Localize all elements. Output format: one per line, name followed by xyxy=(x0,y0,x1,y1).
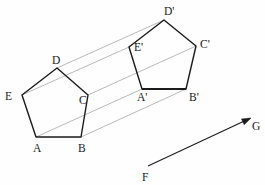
vertex-label-a-prime: A' xyxy=(137,91,147,103)
vector-fg xyxy=(148,118,251,166)
vector-label-g: G xyxy=(252,120,260,132)
vertex-label-b: B xyxy=(78,142,86,154)
vector-label-f: F xyxy=(142,171,148,183)
correspondence-line-a-ap xyxy=(36,89,142,137)
geometry-figure: A B C D E A' B' C' D' E' F G xyxy=(0,0,265,185)
vertex-label-d-prime: D' xyxy=(164,5,174,17)
vertex-label-b-prime: B' xyxy=(189,91,199,103)
vertex-label-e: E xyxy=(5,90,12,102)
vertex-labels: A B C D E A' B' C' D' E' F G xyxy=(5,5,260,183)
vector-fg-shaft xyxy=(148,119,249,166)
vertex-label-c-prime: C' xyxy=(200,38,210,50)
vertex-label-e-prime: E' xyxy=(134,41,143,53)
vertex-label-d: D xyxy=(52,54,60,66)
correspondence-lines xyxy=(22,20,196,137)
vertex-label-c: C xyxy=(79,94,87,106)
pentagon-image-outline xyxy=(129,20,196,89)
correspondence-line-e-ep xyxy=(22,47,129,95)
vector-fg-arrowhead xyxy=(241,118,251,125)
pentagon-image xyxy=(129,20,196,89)
correspondence-line-b-bp xyxy=(81,89,186,137)
vertex-label-a: A xyxy=(33,142,42,154)
correspondence-line-d-dp xyxy=(57,20,164,68)
translation-diagram: A B C D E A' B' C' D' E' F G xyxy=(0,0,265,185)
